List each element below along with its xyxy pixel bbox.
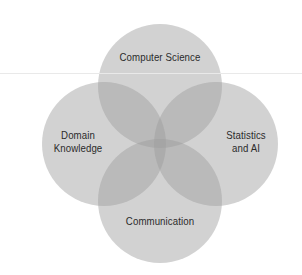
venn-diagram-figure: Computer Science Domain Knowledge Statis… [0, 0, 302, 275]
venn-circles-group [0, 0, 302, 275]
horizontal-rule-artifact [0, 73, 302, 74]
circle-communication [98, 139, 222, 263]
